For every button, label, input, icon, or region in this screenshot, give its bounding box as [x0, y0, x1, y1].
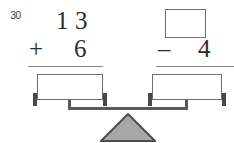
left-top-tens-digit: 1	[56, 6, 69, 36]
right-pan-post-right	[222, 93, 226, 106]
left-plus-operator: +	[29, 34, 43, 64]
right-sum-rule	[156, 66, 234, 67]
left-bottom-digit: 6	[74, 34, 87, 64]
fulcrum-triangle-icon	[98, 112, 158, 143]
left-sum-rule	[28, 66, 103, 67]
left-expression-group: 1 3 + 6	[0, 0, 115, 70]
left-pan-post-left	[33, 93, 37, 106]
right-expression-bottom-row: – 4	[140, 34, 234, 64]
left-top-ones-digit: 3	[75, 6, 88, 36]
right-pan	[152, 74, 222, 100]
left-expression-bottom-row: + 6	[0, 34, 115, 64]
left-answer-box[interactable]	[37, 74, 103, 100]
right-expression-group: – 4	[140, 0, 234, 70]
worksheet-problem: 30 1 3 + 6 – 4	[0, 0, 234, 143]
right-bottom-digit: 4	[198, 34, 211, 64]
right-minus-operator: –	[158, 34, 171, 64]
scale-beam-right-drop	[185, 100, 188, 108]
right-pan-post-left	[148, 93, 152, 106]
scale-beam-left-drop	[68, 100, 71, 108]
left-pan-post-right	[103, 93, 107, 106]
left-pan	[37, 74, 103, 100]
scale-beam	[68, 107, 188, 110]
right-answer-box[interactable]	[152, 74, 222, 100]
left-expression-top-row: 1 3	[0, 6, 115, 36]
